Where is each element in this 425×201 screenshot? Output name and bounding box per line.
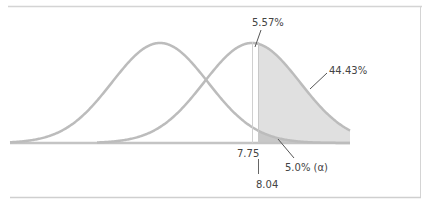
label-gap-pct: 5.57% (252, 17, 284, 28)
leader-power (310, 73, 327, 89)
label-alpha-pct: 5.0% (α) (285, 162, 328, 173)
label-power-pct: 44.43% (329, 65, 367, 76)
power-region (258, 44, 350, 143)
label-x-7-75: 7.75 (237, 148, 259, 159)
label-x-8-04: 8.04 (256, 179, 278, 190)
power-analysis-chart: 5.57% 44.43% 5.0% (α) 7.75 8.04 (0, 0, 425, 201)
